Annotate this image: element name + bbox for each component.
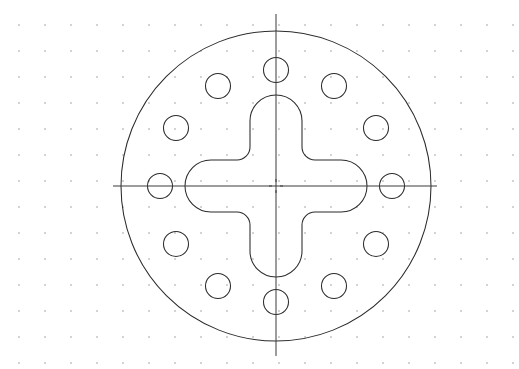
grid-dot xyxy=(122,336,124,338)
grid-dot xyxy=(252,336,254,338)
grid-dot xyxy=(356,154,358,156)
grid-dot xyxy=(226,258,228,260)
grid-dot xyxy=(226,102,228,104)
grid-dot xyxy=(278,336,280,338)
grid-dot xyxy=(174,102,176,104)
grid-dot xyxy=(226,180,228,182)
grid-dot xyxy=(356,102,358,104)
grid-dot xyxy=(330,50,332,52)
grid-dot xyxy=(200,284,202,286)
grid-dot xyxy=(252,232,254,234)
grid-dot xyxy=(174,128,176,130)
grid-dot xyxy=(434,284,436,286)
grid-dot xyxy=(70,258,72,260)
grid-dot xyxy=(382,76,384,78)
grid-dot xyxy=(96,128,98,130)
grid-dot xyxy=(148,232,150,234)
grid-dot xyxy=(512,180,514,182)
grid-dot xyxy=(18,76,20,78)
grid-dot xyxy=(18,284,20,286)
grid-dot xyxy=(174,336,176,338)
grid-dot xyxy=(96,50,98,52)
grid-dot xyxy=(278,24,280,26)
grid-dot xyxy=(18,362,20,364)
grid-dot xyxy=(18,310,20,312)
grid-dot xyxy=(408,128,410,130)
grid-dot xyxy=(434,128,436,130)
grid-dot xyxy=(486,362,488,364)
grid-dot xyxy=(382,310,384,312)
grid-dot xyxy=(18,336,20,338)
grid-dot xyxy=(44,362,46,364)
grid-dot xyxy=(226,50,228,52)
grid-dot xyxy=(44,24,46,26)
grid-dot xyxy=(382,154,384,156)
grid-dot xyxy=(434,24,436,26)
grid-dot xyxy=(330,24,332,26)
grid-dot xyxy=(460,232,462,234)
grid-dot xyxy=(252,284,254,286)
grid-dot xyxy=(408,76,410,78)
grid-dot xyxy=(356,284,358,286)
grid-dot xyxy=(434,102,436,104)
grid-dot xyxy=(304,284,306,286)
grid-dot xyxy=(174,284,176,286)
grid-dot xyxy=(460,102,462,104)
grid-dot xyxy=(122,362,124,364)
grid-dot xyxy=(200,206,202,208)
grid-dot xyxy=(434,180,436,182)
grid-dot xyxy=(174,310,176,312)
grid-dot xyxy=(148,76,150,78)
grid-dot xyxy=(44,154,46,156)
grid-dot xyxy=(278,284,280,286)
grid-dot xyxy=(44,206,46,208)
grid-dot xyxy=(200,128,202,130)
grid-dot xyxy=(200,24,202,26)
grid-dot xyxy=(122,284,124,286)
grid-dot xyxy=(148,206,150,208)
grid-dot xyxy=(70,24,72,26)
grid-dot xyxy=(200,232,202,234)
grid-dot xyxy=(226,336,228,338)
grid-dot xyxy=(44,180,46,182)
grid-dot xyxy=(486,258,488,260)
grid-dot xyxy=(512,336,514,338)
grid-dot xyxy=(70,310,72,312)
grid-dot xyxy=(460,128,462,130)
grid-dot xyxy=(174,50,176,52)
grid-dot xyxy=(382,128,384,130)
grid-dot xyxy=(408,50,410,52)
grid-dot xyxy=(330,284,332,286)
grid-dot xyxy=(304,102,306,104)
grid-dot xyxy=(460,336,462,338)
grid-dot xyxy=(252,206,254,208)
grid-dot xyxy=(356,128,358,130)
grid-dot xyxy=(460,258,462,260)
grid-dot xyxy=(304,128,306,130)
technical-drawing[interactable] xyxy=(0,0,519,369)
grid-dot xyxy=(96,258,98,260)
grid-dot xyxy=(486,206,488,208)
grid-dot xyxy=(122,76,124,78)
grid-dot xyxy=(18,258,20,260)
grid-dot xyxy=(330,336,332,338)
grid-dot xyxy=(226,232,228,234)
grid-dot xyxy=(148,154,150,156)
grid-dot xyxy=(18,180,20,182)
grid-dot xyxy=(70,284,72,286)
grid-dot xyxy=(96,336,98,338)
grid-dot xyxy=(252,128,254,130)
grid-dot xyxy=(512,154,514,156)
grid-dot xyxy=(512,24,514,26)
grid-dot xyxy=(18,24,20,26)
grid-dot xyxy=(70,232,72,234)
grid-dot xyxy=(330,154,332,156)
grid-dot xyxy=(512,310,514,312)
grid-dot xyxy=(304,336,306,338)
grid-dot xyxy=(330,232,332,234)
grid-dot xyxy=(486,76,488,78)
grid-dot xyxy=(330,206,332,208)
grid-dot xyxy=(512,284,514,286)
grid-dot xyxy=(278,76,280,78)
grid-dot xyxy=(434,362,436,364)
